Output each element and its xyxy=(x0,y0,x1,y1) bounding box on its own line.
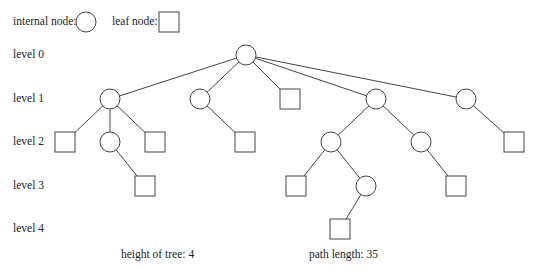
level-3-label: level 3 xyxy=(13,179,44,191)
internal-node-icon xyxy=(100,132,120,152)
leaf-node-icon xyxy=(145,132,165,152)
internal-node-icon xyxy=(366,89,386,109)
leaf-node-icon xyxy=(330,219,350,239)
leaf-node-icon xyxy=(504,132,524,152)
internal-node-icon xyxy=(100,89,120,109)
level-1-label: level 1 xyxy=(13,92,44,104)
tree-height-label: height of tree: 4 xyxy=(121,248,194,260)
legend-leaf-node-icon xyxy=(159,12,179,32)
path-length-label: path length: 35 xyxy=(309,248,378,260)
legend-internal-node-icon xyxy=(76,12,96,32)
tree-diagram xyxy=(0,0,538,276)
internal-node-icon xyxy=(456,89,476,109)
internal-node-icon xyxy=(356,176,376,196)
internal-node-icon xyxy=(190,89,210,109)
leaf-node-icon xyxy=(55,132,75,152)
legend-leaf-label: leaf node: xyxy=(112,15,158,27)
level-0-label: level 0 xyxy=(13,48,44,60)
internal-node-icon xyxy=(236,45,256,65)
tree-edge xyxy=(110,55,246,99)
internal-node-icon xyxy=(411,132,431,152)
level-4-label: level 4 xyxy=(13,222,44,234)
leaf-node-icon xyxy=(446,176,466,196)
leaf-node-icon xyxy=(286,176,306,196)
leaf-node-icon xyxy=(280,89,300,109)
leaf-node-icon xyxy=(135,176,155,196)
leaf-node-icon xyxy=(235,132,255,152)
level-2-label: level 2 xyxy=(13,135,44,147)
internal-node-icon xyxy=(321,132,341,152)
